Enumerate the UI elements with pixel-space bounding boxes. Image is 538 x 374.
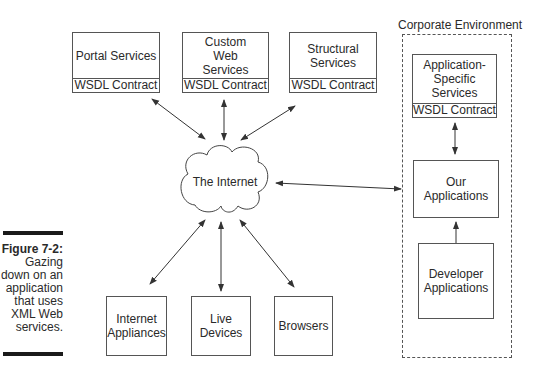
browsers-box: Browsers — [274, 296, 333, 356]
arrow-portal-internet — [152, 99, 205, 139]
arrow-internet-corporate — [276, 183, 401, 189]
arrow-internet-appliances — [150, 220, 205, 284]
structural-services-box: Structural Services WSDL Contract — [289, 32, 377, 93]
service-name: Portal Services — [73, 33, 159, 78]
wsdl-contract: WSDL Contract — [183, 78, 268, 92]
wsdl-contract: WSDL Contract — [73, 78, 159, 92]
live-devices-box: Live Devices — [191, 296, 251, 356]
client-name: Live Devices — [192, 312, 251, 340]
corporate-environment-title: Corporate Environment — [398, 18, 522, 32]
arrow-structural-internet — [241, 106, 295, 140]
developer-applications-box: Developer Applications — [418, 243, 494, 319]
client-name: Browsers — [278, 319, 328, 333]
app-name: Developer Applications — [419, 267, 493, 295]
service-name: Structural Services — [290, 33, 376, 78]
app-name: Our Applications — [414, 175, 498, 203]
arrow-internet-browsers — [240, 220, 294, 287]
portal-services-box: Portal Services WSDL Contract — [72, 32, 160, 93]
internet-label: The Internet — [192, 175, 258, 189]
wsdl-contract: WSDL Contract — [290, 78, 376, 92]
application-specific-services-box: Application-Specific Services WSDL Contr… — [412, 54, 497, 118]
service-name: Custom Web Services — [183, 33, 268, 78]
wsdl-contract: WSDL Contract — [413, 103, 496, 117]
our-applications-box: Our Applications — [413, 160, 499, 218]
internet-appliances-box: Internet Appliances — [106, 296, 167, 356]
custom-web-services-box: Custom Web Services WSDL Contract — [182, 32, 269, 93]
client-name: Internet Appliances — [103, 312, 170, 340]
service-name: Application-Specific Services — [413, 55, 496, 103]
